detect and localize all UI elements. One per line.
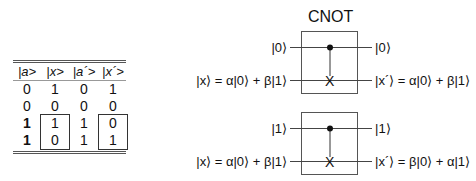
control-output-label: |0⟩	[375, 40, 391, 56]
control-output-label: |1⟩	[375, 121, 391, 137]
target-output-label: |x´⟩ = α|0⟩ + β|1⟩	[375, 73, 470, 89]
circuit-title: CNOT	[308, 8, 353, 26]
target-x-symbol: X	[325, 73, 334, 89]
target-x-symbol: X	[325, 154, 334, 170]
target-input-label: |x⟩ = α|0⟩ + β|1⟩	[196, 73, 287, 89]
target-output-label: |x´⟩ = β|0⟩ + α|1⟩	[375, 154, 470, 170]
control-input-label: |0⟩	[271, 40, 287, 56]
control-input-label: |1⟩	[271, 121, 287, 137]
target-input-label: |x⟩ = α|0⟩ + β|1⟩	[196, 154, 287, 170]
